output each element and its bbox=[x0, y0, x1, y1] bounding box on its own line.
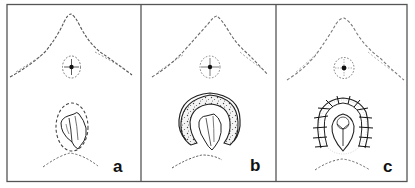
torso-outline-icon bbox=[287, 18, 404, 80]
panel-label-c: c bbox=[383, 158, 392, 175]
navel-icon bbox=[334, 58, 354, 79]
surgical-figure: a b c bbox=[0, 0, 415, 188]
panel-label-b: b bbox=[250, 157, 260, 174]
lesion-icon bbox=[61, 113, 86, 150]
navel-icon bbox=[63, 56, 81, 78]
panel-a bbox=[10, 14, 132, 167]
sutured-wound-icon bbox=[313, 96, 373, 154]
figure-canvas bbox=[0, 0, 415, 188]
navel-icon bbox=[200, 56, 220, 78]
lower-contour-icon bbox=[315, 159, 370, 170]
panel-c bbox=[287, 18, 404, 170]
excision-margin-icon bbox=[56, 103, 88, 151]
lesion-icon bbox=[199, 114, 221, 150]
lower-contour-icon bbox=[43, 153, 98, 167]
panel-b bbox=[152, 16, 268, 168]
lower-contour-icon bbox=[172, 155, 222, 168]
panel-label-a: a bbox=[113, 158, 122, 175]
